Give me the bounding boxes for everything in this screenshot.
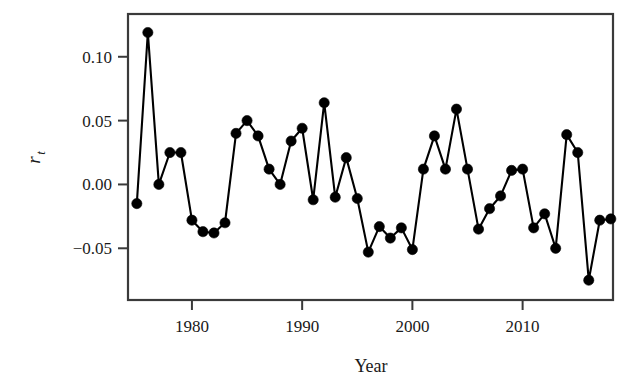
data-point: 1990: 0.044 xyxy=(297,123,307,133)
data-point: 1997: -0.033 xyxy=(374,221,384,231)
data-point: 2000: -0.051 xyxy=(407,244,417,254)
data-point: 1976: 0.119 xyxy=(143,27,153,37)
data-point: 2005: 0.012 xyxy=(462,164,472,174)
data-point: 1995: -0.011 xyxy=(352,193,362,203)
data-point: 2015: 0.025 xyxy=(573,147,583,157)
data-point: 1979: 0.025 xyxy=(176,147,186,157)
data-point: 1986: 0.038 xyxy=(253,131,263,141)
data-point: 2014: 0.039 xyxy=(562,130,572,140)
data-point: 1994: 0.021 xyxy=(341,153,351,163)
data-point: 1988: 0 xyxy=(275,179,285,189)
data-point: 2004: 0.059 xyxy=(451,104,461,114)
data-point: 1981: -0.037 xyxy=(198,227,208,237)
data-point: 2013: -0.05 xyxy=(551,243,561,253)
data-point: 2010: 0.012 xyxy=(518,164,528,174)
data-point: 1998: -0.042 xyxy=(385,233,395,243)
data-point: 1989: 0.034 xyxy=(286,136,296,146)
data-point: 1982: -0.038 xyxy=(209,228,219,238)
data-point: 1984: 0.04 xyxy=(231,128,241,138)
data-point: 1993: -0.01 xyxy=(330,192,340,202)
data-point: 1999: -0.034 xyxy=(396,223,406,233)
y-tick-label-0.05: 0.05 xyxy=(82,112,112,131)
data-point: 2017: -0.028 xyxy=(595,215,605,225)
data-point: 2011: -0.034 xyxy=(529,223,539,233)
x-axis-title: Year xyxy=(354,356,387,376)
line-chart: 1980199020002010 0.100.050.00−0.05 1975:… xyxy=(0,0,640,385)
x-tick-label-2000: 2000 xyxy=(395,317,429,336)
y-tick-label-0.00: 0.00 xyxy=(82,175,112,194)
x-tick-label-1990: 1990 xyxy=(285,317,319,336)
data-point: 1980: -0.028 xyxy=(187,215,197,225)
data-point: 2018: -0.027 xyxy=(606,214,616,224)
data-point: 2002: 0.038 xyxy=(429,131,439,141)
x-tick-label-2010: 2010 xyxy=(506,317,540,336)
y-axis-title-base: r xyxy=(23,156,44,164)
data-point: 2012: -0.023 xyxy=(540,209,550,219)
data-point: 1975: -0.015 xyxy=(132,199,142,209)
data-point: 1977: 0 xyxy=(154,179,164,189)
data-point: 2001: 0.012 xyxy=(418,164,428,174)
data-point: 2009: 0.011 xyxy=(506,165,516,175)
x-tick-label-1980: 1980 xyxy=(175,317,209,336)
data-point: 1992: 0.064 xyxy=(319,98,329,108)
chart-figure: 1980199020002010 0.100.050.00−0.05 1975:… xyxy=(0,0,640,385)
data-point: 1987: 0.012 xyxy=(264,164,274,174)
data-point: 2006: -0.035 xyxy=(473,224,483,234)
data-point: 2016: -0.075 xyxy=(584,275,594,285)
data-point: 2008: -0.009 xyxy=(495,191,505,201)
data-point: 2007: -0.019 xyxy=(484,204,494,214)
data-point: 1983: -0.03 xyxy=(220,218,230,228)
data-point: 1991: -0.012 xyxy=(308,195,318,205)
y-tick-label-0.10: 0.10 xyxy=(82,48,112,67)
y-tick-label--0.05: −0.05 xyxy=(73,239,112,258)
data-point: 2003: 0.012 xyxy=(440,164,450,174)
data-point: 1996: -0.053 xyxy=(363,247,373,257)
data-point: 1985: 0.05 xyxy=(242,116,252,126)
y-axis-title-subscript: t xyxy=(33,151,48,155)
data-point: 1978: 0.025 xyxy=(165,147,175,157)
